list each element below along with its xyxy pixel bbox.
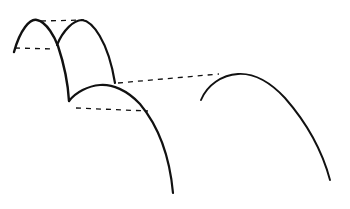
arch-3 xyxy=(69,85,173,193)
dashed-line-lower xyxy=(76,108,148,111)
dashed-line-left xyxy=(15,48,54,49)
arch-4 xyxy=(201,74,330,180)
arches-diagram xyxy=(0,0,350,209)
arches-group xyxy=(14,20,330,193)
dashed-line-long xyxy=(118,74,219,83)
dashed-lines-group xyxy=(15,20,219,111)
arch-1 xyxy=(14,20,69,101)
